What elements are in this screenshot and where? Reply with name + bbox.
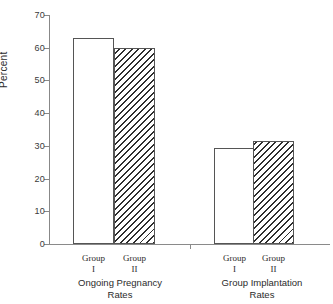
x-group-title-line1: Group Implantation bbox=[196, 277, 328, 289]
y-tick-label: 0 bbox=[40, 239, 45, 249]
x-tick-label-line2: II bbox=[247, 264, 300, 275]
y-tick-label: 10 bbox=[35, 206, 45, 216]
x-tick-label-line2: II bbox=[108, 264, 161, 275]
y-tick-label: 30 bbox=[35, 141, 45, 151]
y-tick-label: 50 bbox=[35, 75, 45, 85]
x-tick-label-group1-2: GroupII bbox=[108, 253, 161, 275]
plot-area bbox=[49, 15, 329, 244]
bar-chart: Percent 706050403020100 GroupIGroupIIOng… bbox=[0, 0, 333, 304]
y-tick-label: 70 bbox=[35, 10, 45, 20]
x-group-title-line2: Rates bbox=[55, 289, 185, 301]
bar-group2-2 bbox=[253, 141, 294, 244]
x-tick-label-line1: Group bbox=[247, 253, 300, 264]
x-group-title-1: Ongoing PregnancyRates bbox=[55, 277, 185, 301]
x-tick-label-line1: Group bbox=[108, 253, 161, 264]
x-group-title-line2: Rates bbox=[196, 289, 328, 301]
x-group-title-2: Group ImplantationRates bbox=[196, 277, 328, 301]
x-group-title-line1: Ongoing Pregnancy bbox=[55, 277, 185, 289]
x-tick-label-group2-2: GroupII bbox=[247, 253, 300, 275]
bar-group1-1 bbox=[73, 38, 114, 244]
y-tick-label: 60 bbox=[35, 43, 45, 53]
bar-group1-2 bbox=[114, 48, 155, 244]
group-separator-tick bbox=[190, 245, 191, 249]
bar-group2-1 bbox=[214, 148, 255, 245]
y-tick-label: 20 bbox=[35, 174, 45, 184]
y-tick-label: 40 bbox=[35, 108, 45, 118]
y-axis-title: Percent bbox=[0, 51, 9, 88]
